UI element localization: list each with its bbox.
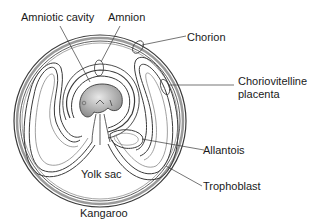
- label-chorion: Chorion: [187, 31, 226, 43]
- kangaroo-embryo-diagram: [0, 0, 320, 223]
- label-amniotic-cavity: Amniotic cavity: [21, 11, 94, 23]
- label-yolk-sac: Yolk sac: [81, 168, 122, 180]
- label-amnion: Amnion: [108, 11, 145, 23]
- label-trophoblast: Trophoblast: [203, 180, 261, 192]
- diagram-title-kangaroo: Kangaroo: [80, 207, 128, 219]
- label-choriovitelline-line1: Choriovitelline: [238, 75, 307, 87]
- label-allantois: Allantois: [203, 144, 245, 156]
- label-choriovitelline-line2: placenta: [238, 88, 280, 100]
